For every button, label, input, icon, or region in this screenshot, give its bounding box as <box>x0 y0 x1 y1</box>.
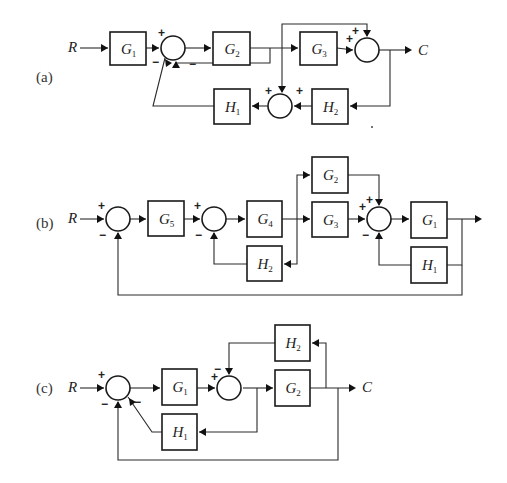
arrowhead-icon <box>475 215 482 223</box>
arrowhead-icon <box>114 232 122 239</box>
block-diagrams-figure: (a)G1G2G3H1H2+−−++++RC (b)G5G4H2G2G3G1H1… <box>0 0 507 483</box>
minus-sign: − <box>189 57 196 71</box>
arrowhead-icon <box>402 215 409 223</box>
summing-junction <box>355 38 379 62</box>
arrowhead-icon <box>172 61 180 68</box>
arrowhead-icon <box>303 171 310 179</box>
block-subscript: 2 <box>334 175 339 185</box>
diagram-c: (c)G1H1H2G2+−−+−RC <box>36 325 373 460</box>
arrowhead-icon <box>204 44 211 52</box>
arrowhead-icon <box>303 215 310 223</box>
block-g5: G5 <box>148 201 184 236</box>
minus-sign: − <box>101 397 108 411</box>
arrowhead-icon <box>278 86 286 93</box>
block-h1: H1 <box>214 89 250 124</box>
summing-junction <box>202 207 226 231</box>
plus-sign: + <box>98 199 105 213</box>
plus-sign: + <box>359 200 366 214</box>
arrowhead-icon <box>363 30 371 37</box>
input-label-r: R <box>67 379 77 395</box>
block-subscript: 2 <box>296 343 301 353</box>
plus-sign: + <box>158 26 165 40</box>
block-subscript: 1 <box>236 107 241 117</box>
block-g2: G2 <box>312 157 348 193</box>
summing-junction <box>217 376 241 400</box>
arrowhead-icon <box>375 199 383 206</box>
block-subscript: 1 <box>433 220 438 230</box>
arrowhead-icon <box>294 102 301 110</box>
output-label-c: C <box>362 379 373 395</box>
diagram-b: (b)G5G4H2G2G3G1H1+−+−++−R <box>36 157 482 295</box>
minus-sign: − <box>195 228 202 242</box>
block-subscript: 5 <box>170 219 175 229</box>
arrowhead-icon <box>193 215 200 223</box>
arrowhead-icon <box>199 428 206 436</box>
diagram-a: (a)G1G2G3H1H2+−−++++RC <box>36 24 429 128</box>
summing-junction <box>106 207 130 231</box>
block-h2: H2 <box>312 89 348 124</box>
arrowhead-icon <box>312 339 319 347</box>
signal-line <box>153 58 214 106</box>
block-g4: G4 <box>247 201 282 237</box>
signal-line <box>229 343 275 374</box>
arrowhead-icon <box>153 384 160 392</box>
minus-sign: − <box>214 362 221 376</box>
arrowhead-icon <box>97 215 104 223</box>
block-subscript: 2 <box>235 49 240 59</box>
plus-sign: + <box>352 24 359 38</box>
arrowhead-icon <box>405 46 412 54</box>
signal-line <box>447 219 462 265</box>
diagram-label: (a) <box>36 69 53 86</box>
arrowhead-icon <box>208 384 215 392</box>
plus-sign: + <box>366 193 373 207</box>
summing-junction <box>106 376 130 400</box>
signal-line <box>297 175 310 219</box>
arrowhead-icon <box>101 44 108 52</box>
plus-sign: + <box>265 84 272 98</box>
arrowhead-icon <box>210 232 218 239</box>
arrowhead-icon <box>252 102 259 110</box>
arrowhead-icon <box>152 44 159 52</box>
arrowhead-icon <box>375 232 383 239</box>
plus-sign: + <box>296 84 303 98</box>
block-g2: G2 <box>275 370 310 406</box>
arrowhead-icon <box>97 384 104 392</box>
signal-line <box>284 219 297 264</box>
minus-sign: − <box>362 228 369 242</box>
block-subscript: 2 <box>268 264 273 274</box>
block-subscript: 3 <box>334 220 339 230</box>
block-h1: H1 <box>411 247 447 283</box>
block-subscript: 2 <box>296 388 301 398</box>
input-label-r: R <box>67 210 77 226</box>
plus-sign: + <box>194 199 201 213</box>
block-g1: G1 <box>411 202 447 238</box>
block-h1: H1 <box>162 414 197 450</box>
block-h2: H2 <box>247 246 282 281</box>
arrowhead-icon <box>139 215 146 223</box>
block-subscript: 3 <box>322 49 327 59</box>
arrowhead-icon <box>238 215 245 223</box>
arrowhead-icon <box>350 102 357 110</box>
block-subscript: 2 <box>334 107 339 117</box>
block-g3: G3 <box>312 202 348 237</box>
arrowhead-icon <box>291 44 298 52</box>
stray-dot <box>371 126 373 128</box>
diagram-label: (c) <box>36 380 53 397</box>
arrowhead-icon <box>358 215 365 223</box>
block-subscript: 1 <box>132 49 137 59</box>
block-g1: G1 <box>162 369 197 405</box>
minus-sign: − <box>99 228 106 242</box>
plus-sign: + <box>98 368 105 382</box>
summing-junction <box>367 207 391 231</box>
arrowhead-icon <box>266 384 273 392</box>
block-subscript: 4 <box>268 219 273 229</box>
signal-line <box>312 343 326 388</box>
output-label-c: C <box>418 42 429 58</box>
arrowhead-icon <box>114 401 122 408</box>
block-g2: G2 <box>213 32 250 65</box>
block-subscript: 1 <box>183 432 188 442</box>
arrowhead-icon <box>284 260 291 268</box>
arrowhead-icon <box>346 46 353 54</box>
block-g1: G1 <box>110 32 146 65</box>
block-subscript: 1 <box>183 387 188 397</box>
